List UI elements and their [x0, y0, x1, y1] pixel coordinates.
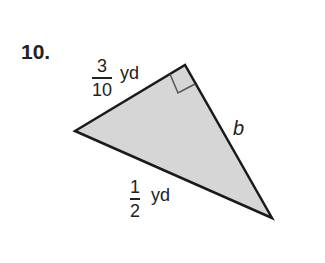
denominator: 2: [130, 202, 140, 220]
right-triangle-figure: [0, 0, 325, 263]
leg-right-label: b: [233, 117, 244, 140]
fraction-bar: [130, 198, 140, 200]
numerator: 3: [97, 57, 107, 75]
leg-top-unit: yd: [120, 63, 139, 84]
hypotenuse-fraction: 1 2: [130, 178, 140, 220]
numerator: 1: [130, 178, 140, 196]
fraction-bar: [92, 77, 112, 79]
leg-top-fraction: 3 10: [92, 57, 112, 99]
hypotenuse-unit: yd: [151, 185, 170, 206]
denominator: 10: [92, 81, 112, 99]
